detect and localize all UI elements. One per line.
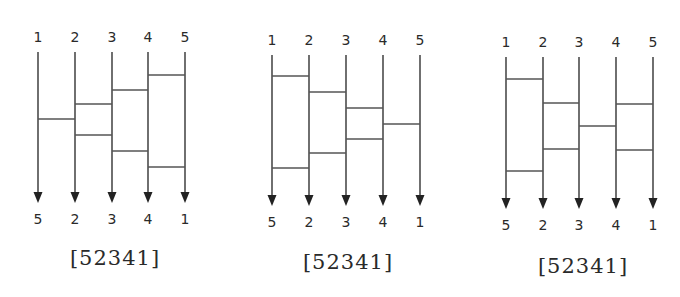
permutation-caption: [52341] xyxy=(538,254,628,278)
permutation-caption: [52341] xyxy=(70,246,160,270)
bottom-label: 1 xyxy=(416,214,425,230)
bottom-label: 2 xyxy=(305,214,314,230)
bottom-label: 3 xyxy=(342,214,351,230)
arrow-down-icon xyxy=(268,195,277,206)
arrow-down-icon xyxy=(342,195,351,206)
top-label: 4 xyxy=(612,34,621,50)
bottom-label: 5 xyxy=(34,211,43,227)
top-label: 3 xyxy=(575,34,584,50)
arrow-down-icon xyxy=(305,195,314,206)
top-label: 1 xyxy=(34,29,43,45)
bottom-label: 1 xyxy=(649,217,658,233)
top-label: 3 xyxy=(342,32,351,48)
top-label: 5 xyxy=(649,34,658,50)
arrow-down-icon xyxy=(34,192,43,203)
bottom-label: 5 xyxy=(502,217,511,233)
amidakuji-diagram-3: 1522334451[52341] xyxy=(502,34,658,278)
arrow-down-icon xyxy=(502,198,511,209)
top-label: 5 xyxy=(181,29,190,45)
amidakuji-diagram-1: 1522334451[52341] xyxy=(34,29,190,270)
bottom-label: 4 xyxy=(144,211,153,227)
arrow-down-icon xyxy=(539,198,548,209)
top-label: 5 xyxy=(416,32,425,48)
amidakuji-figure: 1522334451[52341] 1522334451[52341] 1522… xyxy=(0,0,680,297)
bottom-label: 3 xyxy=(108,211,117,227)
arrow-down-icon xyxy=(108,192,117,203)
top-label: 4 xyxy=(144,29,153,45)
arrow-down-icon xyxy=(181,192,190,203)
bottom-label: 2 xyxy=(539,217,548,233)
top-label: 1 xyxy=(502,34,511,50)
top-label: 3 xyxy=(108,29,117,45)
top-label: 1 xyxy=(268,32,277,48)
arrow-down-icon xyxy=(71,192,80,203)
top-label: 2 xyxy=(71,29,80,45)
arrow-down-icon xyxy=(612,198,621,209)
arrow-down-icon xyxy=(575,198,584,209)
bottom-label: 2 xyxy=(71,211,80,227)
bottom-label: 4 xyxy=(379,214,388,230)
permutation-caption: [52341] xyxy=(303,250,393,274)
arrow-down-icon xyxy=(649,198,658,209)
bottom-label: 1 xyxy=(181,211,190,227)
arrow-down-icon xyxy=(416,195,425,206)
top-label: 2 xyxy=(539,34,548,50)
top-label: 4 xyxy=(379,32,388,48)
bottom-label: 5 xyxy=(268,214,277,230)
bottom-label: 3 xyxy=(575,217,584,233)
arrow-down-icon xyxy=(144,192,153,203)
arrow-down-icon xyxy=(379,195,388,206)
bottom-label: 4 xyxy=(612,217,621,233)
top-label: 2 xyxy=(305,32,314,48)
amidakuji-diagram-2: 1522334451[52341] xyxy=(268,32,425,274)
